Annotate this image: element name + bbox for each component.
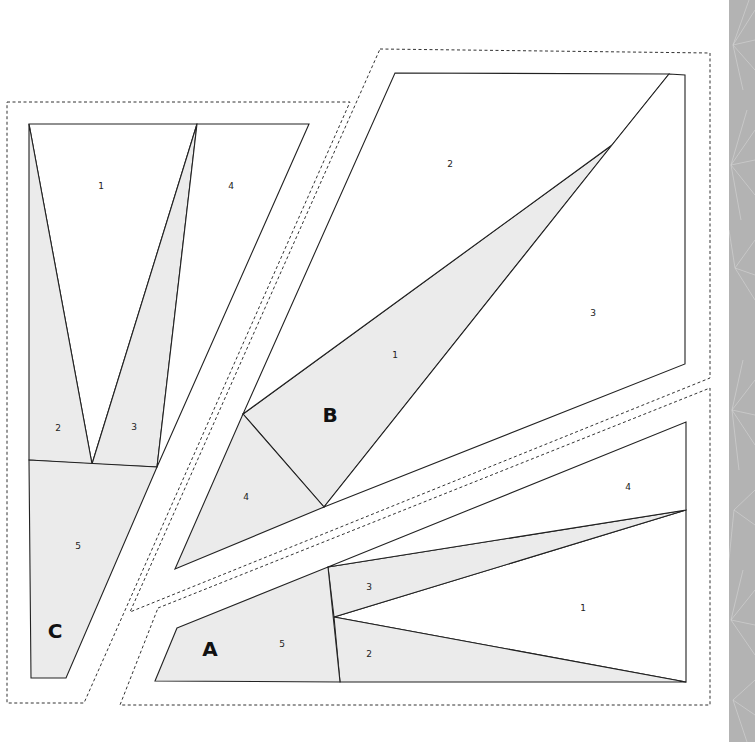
piece-number-a5: 5 (279, 639, 285, 649)
starburst-pattern-icon (729, 0, 755, 742)
piece-c5 (29, 460, 157, 678)
piece-number-b1: 1 (392, 350, 398, 360)
piece-number-a4: 4 (625, 482, 631, 492)
piece-number-a3: 3 (366, 582, 372, 592)
piece-number-c2: 2 (55, 423, 61, 433)
section-label-c: C (48, 619, 63, 643)
piece-number-a1: 1 (580, 603, 586, 613)
piece-number-c4: 4 (228, 181, 234, 191)
pattern-pieces (29, 73, 686, 682)
piece-number-b3: 3 (590, 308, 596, 318)
decorative-side-strip (729, 0, 755, 742)
foundation-paper-piecing-pattern: 12345C1234B12345A (0, 0, 755, 742)
piece-number-b4: 4 (243, 492, 249, 502)
section-label-b: B (322, 403, 337, 427)
piece-number-c1: 1 (98, 181, 104, 191)
piece-number-a2: 2 (366, 649, 372, 659)
piece-a5 (155, 567, 340, 682)
section-label-a: A (202, 637, 218, 661)
piece-number-c3: 3 (131, 422, 137, 432)
piece-number-b2: 2 (447, 159, 453, 169)
piece-number-c5: 5 (75, 541, 81, 551)
